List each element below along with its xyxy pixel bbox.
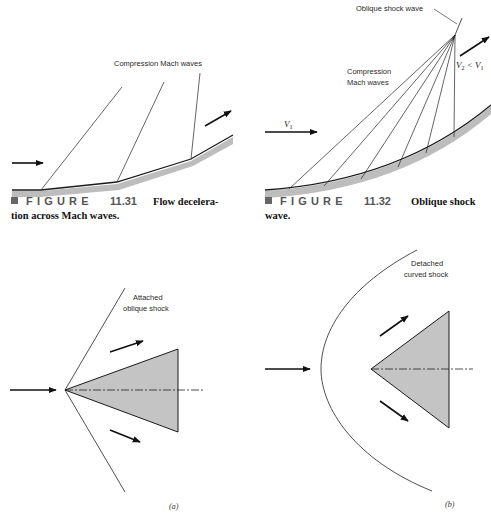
shock-label-leader bbox=[434, 9, 457, 24]
caption-marker-icon bbox=[11, 197, 18, 204]
figure-11-31-diagram: Compression Mach waves bbox=[12, 59, 233, 197]
upper-flow-arrow-icon bbox=[110, 341, 143, 352]
outflow-arrow-icon bbox=[205, 111, 231, 126]
caption-text-line1: Flow decelera- bbox=[153, 196, 219, 207]
mach-wave-3 bbox=[191, 73, 200, 159]
oblique-shock-line bbox=[453, 18, 462, 40]
v2-label: V2 < V1 bbox=[456, 60, 484, 71]
wall-shadow bbox=[265, 106, 491, 198]
attached-label-line2: oblique shock bbox=[123, 304, 169, 313]
lower-flow-arrow-icon bbox=[110, 430, 140, 442]
figure-11-31-caption: FIGURE 11.31 Flow decelera- tion across … bbox=[11, 195, 219, 221]
compression-mach-waves bbox=[289, 35, 455, 189]
figure-11-32-diagram: Oblique shock wave Compression Mach wave… bbox=[265, 4, 491, 198]
figure-11-32-caption: FIGURE 11.32 Oblique shock wave. bbox=[265, 195, 476, 221]
caption-figure-word: FIGURE bbox=[280, 195, 347, 207]
wedge-body bbox=[371, 311, 449, 428]
panel-b-tag: (b) bbox=[445, 500, 455, 509]
panel-b-detached-shock: Detached curved shock (b) bbox=[265, 250, 473, 509]
v1-label: V1 bbox=[284, 119, 293, 130]
caption-marker-icon bbox=[265, 197, 272, 204]
detached-label-line2: curved shock bbox=[404, 270, 448, 279]
mach-label-line1: Compression bbox=[347, 67, 391, 76]
curved-wall-surface bbox=[265, 105, 491, 190]
oblique-shock-label: Oblique shock wave bbox=[356, 4, 423, 13]
caption-figure-number: 11.31 bbox=[110, 195, 137, 207]
mach-waves-label: Compression Mach waves bbox=[114, 59, 202, 68]
panel-a-tag: (a) bbox=[169, 502, 179, 511]
mach-wave-2 bbox=[117, 82, 164, 182]
caption-figure-word: FIGURE bbox=[26, 195, 93, 207]
wall-surface bbox=[12, 135, 233, 190]
panel-a-attached-shock: Attached oblique shock (a) bbox=[10, 288, 203, 511]
upper-flow-arrow-icon bbox=[380, 316, 408, 336]
figure-canvas: Compression Mach waves FIGURE 11.31 Flow… bbox=[0, 0, 491, 515]
v2-arrow-icon bbox=[460, 37, 489, 56]
attached-label-line1: Attached bbox=[133, 293, 163, 302]
caption-text-line1: Oblique shock bbox=[411, 196, 476, 207]
caption-text-line2: wave. bbox=[265, 210, 291, 221]
detached-label-line1: Detached bbox=[411, 259, 443, 268]
mach-wave-1 bbox=[41, 87, 122, 190]
lower-flow-arrow-icon bbox=[380, 401, 408, 421]
wall-shadow bbox=[12, 137, 233, 197]
caption-figure-number: 11.32 bbox=[364, 195, 391, 207]
mach-label-line2: Mach waves bbox=[347, 78, 389, 87]
caption-text-line2: tion across Mach waves. bbox=[11, 210, 120, 221]
